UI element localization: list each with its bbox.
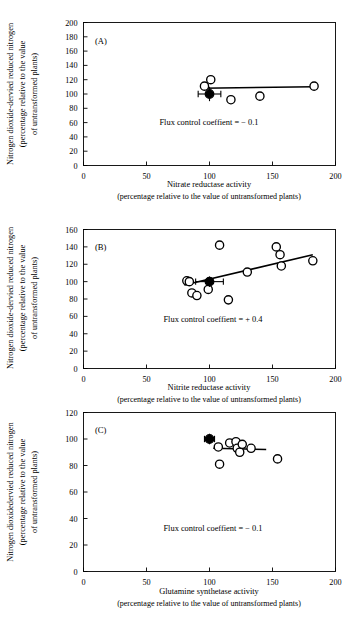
data-point-open bbox=[272, 243, 280, 251]
panel-b-plot: 020406080100120140160 050100150200 (B) F… bbox=[0, 200, 360, 410]
y-tick-label: 20 bbox=[69, 347, 77, 356]
data-point-open bbox=[276, 251, 284, 259]
flux-annotation: Flux control coeffient = + 0.4 bbox=[163, 315, 263, 324]
x-axis-subtitle: (percentage relative to the value of unt… bbox=[117, 599, 301, 608]
y-tick-label: 40 bbox=[69, 133, 77, 142]
y-tick-label: 60 bbox=[69, 312, 77, 321]
x-tick-label: 50 bbox=[142, 578, 150, 587]
x-tick-label: 150 bbox=[266, 578, 278, 587]
data-point-open bbox=[309, 257, 317, 265]
panel-c-data bbox=[204, 434, 281, 469]
data-point-open bbox=[185, 278, 193, 286]
y-tick-label: 60 bbox=[69, 119, 77, 128]
panel-a-plot: 020406080100120140160180200 050100150200… bbox=[0, 0, 360, 207]
data-point-open bbox=[215, 460, 223, 468]
y-tick-label: 0 bbox=[73, 365, 77, 374]
data-point-open bbox=[207, 76, 215, 84]
data-point-open bbox=[236, 448, 244, 456]
y-axis-subtitle-2: of untransformed plants) bbox=[30, 53, 39, 135]
y-tick-label: 60 bbox=[69, 488, 77, 497]
panel-b-data bbox=[183, 241, 317, 304]
data-point-open bbox=[243, 268, 251, 276]
panel-b-x-ticks: 050100150200 bbox=[81, 365, 341, 384]
data-point-open bbox=[200, 82, 208, 90]
x-tick-label: 0 bbox=[81, 172, 85, 181]
y-tick-label: 140 bbox=[65, 243, 77, 252]
data-point-open bbox=[277, 262, 285, 270]
data-point-open bbox=[256, 92, 264, 100]
y-tick-label: 40 bbox=[69, 515, 77, 524]
y-tick-label: 80 bbox=[69, 104, 77, 113]
panel-letter: (C) bbox=[95, 425, 107, 435]
data-point-open bbox=[224, 296, 232, 304]
y-axis-title: Nitrogen dioxidedervied reduced nitrogen bbox=[6, 421, 15, 561]
data-point-control bbox=[205, 277, 214, 286]
y-tick-label: 40 bbox=[69, 330, 77, 339]
panel-b-axes bbox=[84, 230, 336, 369]
x-tick-label: 0 bbox=[81, 375, 85, 384]
x-axis-title: Nitrite reductase activity bbox=[168, 383, 252, 392]
y-tick-label: 100 bbox=[65, 435, 77, 444]
y-tick-label: 120 bbox=[65, 409, 77, 418]
y-tick-label: 160 bbox=[65, 226, 77, 235]
panel-c-plot: 020406080100120 050100150200 (C) Flux co… bbox=[0, 408, 360, 622]
flux-annotation: Flux control coeffient = − 0.1 bbox=[163, 524, 262, 533]
x-tick-label: 200 bbox=[329, 172, 341, 181]
data-point-open bbox=[193, 291, 201, 299]
panel-c-y-ticks: 020406080100120 bbox=[65, 409, 87, 577]
x-tick-label: 50 bbox=[142, 172, 150, 181]
plot-frame bbox=[84, 230, 336, 369]
y-tick-label: 100 bbox=[65, 90, 77, 99]
y-axis-title: Nitrogen dioxide-dervied reduced nitroge… bbox=[6, 226, 15, 369]
data-point-open bbox=[310, 82, 318, 90]
data-point-open bbox=[227, 96, 235, 104]
x-tick-label: 50 bbox=[142, 375, 150, 384]
data-point-open bbox=[214, 443, 222, 451]
y-axis-subtitle-1: (percentage relative to the value bbox=[18, 244, 27, 351]
y-tick-label: 100 bbox=[65, 278, 77, 287]
y-axis-title: Nitrogen dioxide-dervied reduced nitroge… bbox=[6, 22, 15, 165]
y-tick-label: 120 bbox=[65, 76, 77, 85]
y-axis-subtitle-1: (percentage relative to the value bbox=[18, 40, 27, 147]
data-point-open bbox=[238, 440, 246, 448]
x-tick-label: 0 bbox=[81, 578, 85, 587]
y-tick-label: 20 bbox=[69, 541, 77, 550]
y-tick-label: 160 bbox=[65, 47, 77, 56]
x-tick-label: 150 bbox=[266, 375, 278, 384]
panel-a: 020406080100120140160180200 050100150200… bbox=[0, 0, 360, 207]
y-axis-subtitle-2: of untransformed plants) bbox=[30, 257, 39, 339]
x-tick-label: 100 bbox=[203, 578, 215, 587]
x-tick-label: 200 bbox=[329, 375, 341, 384]
y-tick-label: 120 bbox=[65, 260, 77, 269]
data-point-control bbox=[205, 435, 214, 444]
panel-a-x-ticks: 050100150200 bbox=[81, 162, 341, 181]
data-point-open bbox=[204, 285, 212, 293]
x-axis-subtitle: (percentage relative to the value of unt… bbox=[117, 395, 301, 404]
panel-c: 020406080100120 050100150200 (C) Flux co… bbox=[0, 408, 360, 622]
panel-letter: (B) bbox=[95, 242, 107, 252]
panel-b-y-ticks: 020406080100120140160 bbox=[65, 226, 87, 374]
panel-letter: (A) bbox=[95, 36, 107, 46]
y-tick-label: 180 bbox=[65, 33, 77, 42]
flux-annotation: Flux control coeffient = − 0.1 bbox=[159, 118, 258, 127]
y-tick-label: 140 bbox=[65, 61, 77, 70]
y-tick-label: 0 bbox=[73, 162, 77, 171]
y-tick-label: 200 bbox=[65, 19, 77, 28]
x-axis-title: Nitrate reductase activity bbox=[167, 180, 252, 189]
y-axis-subtitle-2: of untransformed plants) bbox=[30, 451, 39, 533]
x-axis-title: Glutamine synthetase activity bbox=[159, 587, 259, 596]
y-tick-label: 80 bbox=[69, 295, 77, 304]
data-point-control bbox=[205, 90, 214, 99]
panel-c-x-ticks: 050100150200 bbox=[81, 568, 341, 587]
panel-a-data bbox=[198, 76, 318, 104]
y-axis-subtitle-1: (percentage relative to the value bbox=[18, 438, 27, 545]
x-tick-label: 150 bbox=[266, 172, 278, 181]
y-tick-label: 0 bbox=[73, 568, 77, 577]
data-point-open bbox=[215, 241, 223, 249]
panel-b: 020406080100120140160 050100150200 (B) F… bbox=[0, 200, 360, 410]
figure-container: 020406080100120140160180200 050100150200… bbox=[0, 0, 360, 622]
y-tick-label: 20 bbox=[69, 147, 77, 156]
panel-a-y-ticks: 020406080100120140160180200 bbox=[65, 19, 87, 171]
data-point-open bbox=[247, 444, 255, 452]
y-tick-label: 80 bbox=[69, 462, 77, 471]
